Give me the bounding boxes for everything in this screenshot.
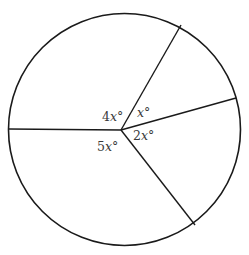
angle-label-2x: 2x° <box>133 128 154 143</box>
radii-group <box>9 25 236 225</box>
angle-label-x: x° <box>137 105 150 120</box>
radius-lower <box>121 130 195 225</box>
circle-diagram: 4x°x°2x°5x° <box>0 0 249 255</box>
radius-left <box>9 129 121 130</box>
angle-coefficient: 5 <box>97 139 105 154</box>
angle-variable: x <box>110 109 117 124</box>
angle-label-4x: 4x° <box>102 109 123 124</box>
angle-label-5x: 5x° <box>97 139 118 154</box>
angle-variable: x <box>141 128 148 143</box>
degree-symbol: ° <box>112 139 118 154</box>
radius-upper <box>121 25 181 130</box>
degree-symbol: ° <box>144 105 150 120</box>
angle-coefficient: 4 <box>102 109 110 124</box>
degree-symbol: ° <box>148 128 154 143</box>
angle-variable: x <box>137 105 144 120</box>
angle-variable: x <box>105 139 112 154</box>
angle-coefficient: 2 <box>133 128 141 143</box>
degree-symbol: ° <box>117 109 123 124</box>
